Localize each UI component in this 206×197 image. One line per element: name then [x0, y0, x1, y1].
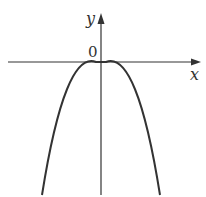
parabola-diagram: y x 0 — [0, 0, 206, 197]
y-axis — [98, 13, 105, 195]
x-axis-label: x — [190, 65, 199, 84]
origin-label: 0 — [88, 43, 98, 61]
y-axis-arrow-icon — [98, 13, 105, 24]
y-axis-label: y — [85, 9, 96, 28]
